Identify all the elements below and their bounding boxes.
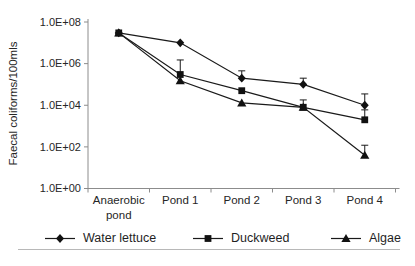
y-tick-label: 1.0E+04 <box>40 99 81 111</box>
triangle-line-icon <box>330 231 362 244</box>
water-lettuce-point-pond-1 <box>176 38 184 47</box>
water-lettuce-point-pond-2 <box>238 74 246 83</box>
y-tick-label: 1.0E+06 <box>40 57 81 69</box>
legend-label-duckweed: Duckweed <box>231 231 289 245</box>
x-tick-label-pond-4: Pond 4 <box>347 194 384 206</box>
square-icon <box>192 232 224 245</box>
diamond-icon-glyph <box>56 234 64 243</box>
legend-item-algae: Algae <box>330 230 401 245</box>
y-tick-label: 1.0E+02 <box>40 141 81 153</box>
water-lettuce-point-pond-4 <box>361 101 369 110</box>
y-tick-label: 1.0E+08 <box>40 16 81 28</box>
duckweed-point-pond-2 <box>238 87 245 94</box>
diamond-line-icon <box>44 231 76 244</box>
legend-item-duckweed: Duckweed <box>192 230 289 245</box>
algae-point-pond-2 <box>237 98 246 106</box>
legend-item-water-lettuce: Water lettuce <box>44 230 156 245</box>
y-axis-title: Faecal coliforms/100mls <box>7 14 22 194</box>
chart-figure: 1.0E+081.0E+061.0E+041.0E+021.0E+00Anaer… <box>0 0 415 266</box>
faecal-coliforms-chart: 1.0E+081.0E+061.0E+041.0E+021.0E+00Anaer… <box>0 0 415 266</box>
duckweed-point-pond-1 <box>177 71 184 78</box>
water-lettuce-point-pond-3 <box>299 80 307 89</box>
legend-label-algae: Algae <box>369 231 401 245</box>
x-tick-label-pond-3: Pond 3 <box>285 194 321 206</box>
water-lettuce-line <box>119 33 365 105</box>
legend-label-water-lettuce: Water lettuce <box>83 231 156 245</box>
x-tick-label-anaerobic-pond: pond <box>106 209 132 221</box>
duckweed-point-anaerobic-pond <box>115 29 122 36</box>
square-line-icon <box>192 231 224 244</box>
x-tick-label-anaerobic-pond: Anaerobic <box>93 194 145 206</box>
triangle-icon <box>330 232 362 245</box>
y-tick-label: 1.0E+00 <box>40 182 81 194</box>
duckweed-point-pond-4 <box>361 116 368 123</box>
square-icon-glyph <box>205 235 212 242</box>
x-tick-label-pond-2: Pond 2 <box>224 194 260 206</box>
x-tick-label-pond-1: Pond 1 <box>162 194 198 206</box>
chart-legend: Water lettuce Duckweed Algae <box>0 230 415 246</box>
duckweed-point-pond-3 <box>300 104 307 111</box>
page-divider <box>18 249 400 250</box>
diamond-icon <box>44 232 76 245</box>
